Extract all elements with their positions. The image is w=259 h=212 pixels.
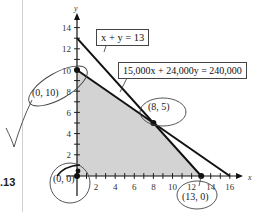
figure-frame: .13: [0, 0, 259, 212]
checkmark-icon: [6, 100, 32, 147]
y-tick-label: 12: [62, 44, 71, 54]
handwritten-dot: [76, 169, 81, 174]
feasible-region: [77, 70, 201, 176]
point-label-0-0: (0, 0): [53, 173, 75, 185]
x-tick-label: 8: [151, 182, 156, 192]
y-tick-label: 2: [67, 150, 72, 160]
x-tick-label: 10: [168, 182, 178, 192]
y-tick-label: 4: [67, 129, 72, 139]
point-label-8-5: (8, 5): [148, 101, 170, 113]
point-label-0-10: (0, 10): [32, 87, 59, 99]
vertex-13-0: [198, 173, 204, 179]
callout-text: x + y = 13: [101, 32, 144, 43]
y-axis-label: y: [73, 4, 78, 13]
callout-text: 15,000x + 24,000y = 240,000: [123, 65, 242, 76]
x-tick-label: 4: [113, 182, 118, 192]
x-axis-arrow-icon: [236, 173, 243, 179]
x-tick-label: 2: [94, 182, 99, 192]
vertex-0-0: [74, 173, 80, 179]
point-label-13-0: (13, 0): [182, 191, 209, 203]
x-tick-label: 6: [132, 182, 137, 192]
vertex-0-10: [74, 67, 80, 73]
x-axis-label: x: [247, 173, 252, 182]
y-tick-label: 14: [62, 23, 72, 33]
x-tick-label: 16: [225, 182, 235, 192]
callout-x-plus-y: x + y = 13: [96, 29, 149, 46]
callout-cost-equation: 15,000x + 24,000y = 240,000: [118, 62, 247, 79]
y-tick-label: 6: [67, 108, 72, 118]
y-axis-arrow-icon: [74, 13, 80, 20]
